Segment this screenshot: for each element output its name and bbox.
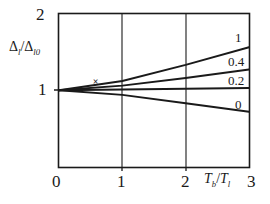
curve-1 xyxy=(59,47,249,90)
curve-0 xyxy=(59,90,249,111)
x-tick-label-1: 1 xyxy=(117,173,126,190)
y-axis-delta-2: Δ xyxy=(24,39,33,54)
x-axis-sub-2: l xyxy=(228,179,230,189)
x-axis-title: Tb/Tl xyxy=(204,172,230,188)
y-tick-label-2: 2 xyxy=(36,6,45,23)
x-axis-t-2: T xyxy=(220,171,228,186)
curve-label-0: 0 xyxy=(235,98,242,111)
gridlines xyxy=(122,14,186,167)
curve-label-0p4: 0.4 xyxy=(228,55,244,68)
x-tick-label-3: 3 xyxy=(247,173,256,190)
curve-label-1: 1 xyxy=(235,31,242,44)
y-axis-sub-2: l0 xyxy=(33,47,40,57)
y-tick-label-1: 1 xyxy=(38,81,47,98)
cross-marker: × xyxy=(93,77,99,87)
chart-figure: 2 1 0 1 2 3 Δl/Δl0 Tb/Tl 1 0.4 0.2 0 × xyxy=(0,0,270,204)
x-axis-t-1: T xyxy=(204,171,212,186)
data-curves xyxy=(59,47,249,111)
x-tick-label-2: 2 xyxy=(181,173,190,190)
y-axis-delta-1: Δ xyxy=(9,39,18,54)
x-tick-label-0: 0 xyxy=(52,173,61,190)
y-axis-title: Δl/Δl0 xyxy=(9,40,40,56)
curve-label-0p2: 0.2 xyxy=(228,74,244,87)
